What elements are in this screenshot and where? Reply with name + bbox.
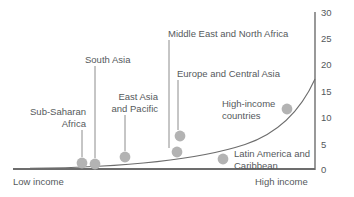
series-label-high-income-countries: High-income countries bbox=[222, 98, 275, 121]
series-label-middle-east-and-north-africa: Middle East and North Africa bbox=[168, 28, 288, 40]
y-tick-15: 15 bbox=[321, 86, 332, 97]
data-point-east-asia-and-pacific bbox=[120, 152, 131, 163]
series-label-latin-america-and-caribbean-line2: Caribbean bbox=[234, 160, 310, 172]
scatter-chart: 30 25 20 15 10 5 0 Sub-Saharan Africa So… bbox=[0, 0, 354, 197]
series-label-high-income-countries-line1: High-income bbox=[222, 98, 275, 110]
y-tick-25: 25 bbox=[321, 33, 332, 44]
data-point-europe-and-central-asia bbox=[175, 131, 186, 142]
series-label-europe-and-central-asia: Europe and Central Asia bbox=[177, 68, 280, 80]
series-label-south-asia: South Asia bbox=[85, 54, 130, 66]
series-label-sub-saharan-africa-line1: Sub-Saharan bbox=[8, 106, 86, 118]
series-label-east-asia-and-pacific: East Asia and Pacific bbox=[100, 91, 158, 114]
y-tick-10: 10 bbox=[321, 112, 332, 123]
x-axis-label-low-income: Low income bbox=[13, 176, 64, 187]
data-point-latin-america-and-caribbean bbox=[218, 154, 229, 165]
data-point-sub-saharan-africa bbox=[77, 158, 88, 169]
x-axis-label-high-income: High income bbox=[255, 176, 308, 187]
data-point-middle-east-and-north-africa bbox=[172, 147, 183, 158]
data-point-high-income-countries bbox=[282, 104, 293, 115]
series-label-high-income-countries-line2: countries bbox=[222, 110, 275, 122]
y-tick-30: 30 bbox=[321, 7, 332, 18]
series-label-latin-america-and-caribbean-line1: Latin America and bbox=[234, 148, 310, 160]
data-point-south-asia bbox=[90, 159, 101, 170]
series-label-latin-america-and-caribbean: Latin America and Caribbean bbox=[234, 148, 310, 171]
series-label-sub-saharan-africa: Sub-Saharan Africa bbox=[8, 106, 86, 129]
y-tick-20: 20 bbox=[321, 59, 332, 70]
y-tick-5: 5 bbox=[321, 139, 326, 150]
series-label-east-asia-and-pacific-line2: and Pacific bbox=[100, 103, 158, 115]
series-label-east-asia-and-pacific-line1: East Asia bbox=[100, 91, 158, 103]
series-label-sub-saharan-africa-line2: Africa bbox=[8, 118, 86, 130]
y-tick-0: 0 bbox=[321, 164, 326, 175]
